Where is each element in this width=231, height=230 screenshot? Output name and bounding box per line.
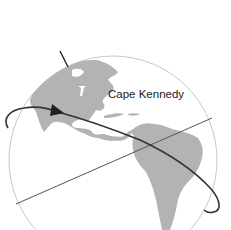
rotation-axis — [60, 51, 68, 67]
globe-diagram — [0, 0, 231, 230]
cape-kennedy-label: Cape Kennedy — [108, 88, 184, 100]
